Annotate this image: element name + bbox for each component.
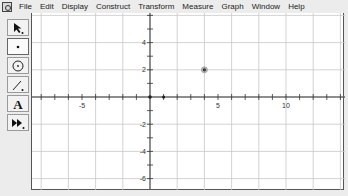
compass-circle-icon [11,59,25,73]
arrow-tool-button[interactable] [7,19,29,36]
y-tick-label: -2 [140,121,146,128]
app-icon[interactable] [2,2,12,12]
y-tick-label: -4 [140,148,146,155]
coordinate-grid: -551042-2-4-6 [32,13,345,190]
menu-bar: File Edit Display Construct Transform Me… [0,0,348,13]
menu-help[interactable]: Help [284,0,308,13]
y-tick-label: -6 [140,175,146,182]
menu-measure[interactable]: Measure [178,0,217,13]
sketch-canvas[interactable]: -551042-2-4-6 [31,13,344,190]
menu-graph[interactable]: Graph [217,0,247,13]
straightedge-icon [11,78,25,92]
point-tool-button[interactable] [7,38,29,55]
custom-tool-button[interactable] [7,114,29,131]
menu-window[interactable]: Window [248,0,284,13]
menu-edit[interactable]: Edit [36,0,58,13]
text-a-icon: A [11,97,25,111]
toolbox: A [7,13,31,189]
y-tick-label: 4 [142,39,146,46]
unit-point [162,95,165,98]
menu-transform[interactable]: Transform [134,0,178,13]
origin-point [148,95,152,99]
fast-forward-icon [11,116,25,130]
plotted-point[interactable] [203,68,206,71]
arrow-select-icon [11,21,25,35]
menu-construct[interactable]: Construct [92,0,134,13]
text-tool-button[interactable]: A [7,95,29,112]
x-tick-label: 5 [216,102,220,109]
svg-text:A: A [13,97,23,111]
straightedge-tool-button[interactable] [7,76,29,93]
y-tick-label: 2 [142,66,146,73]
point-icon [11,40,25,54]
menu-file[interactable]: File [15,0,36,13]
compass-tool-button[interactable] [7,57,29,74]
x-tick-label: 10 [282,102,290,109]
x-tick-label: -5 [79,102,85,109]
menu-display[interactable]: Display [58,0,92,13]
